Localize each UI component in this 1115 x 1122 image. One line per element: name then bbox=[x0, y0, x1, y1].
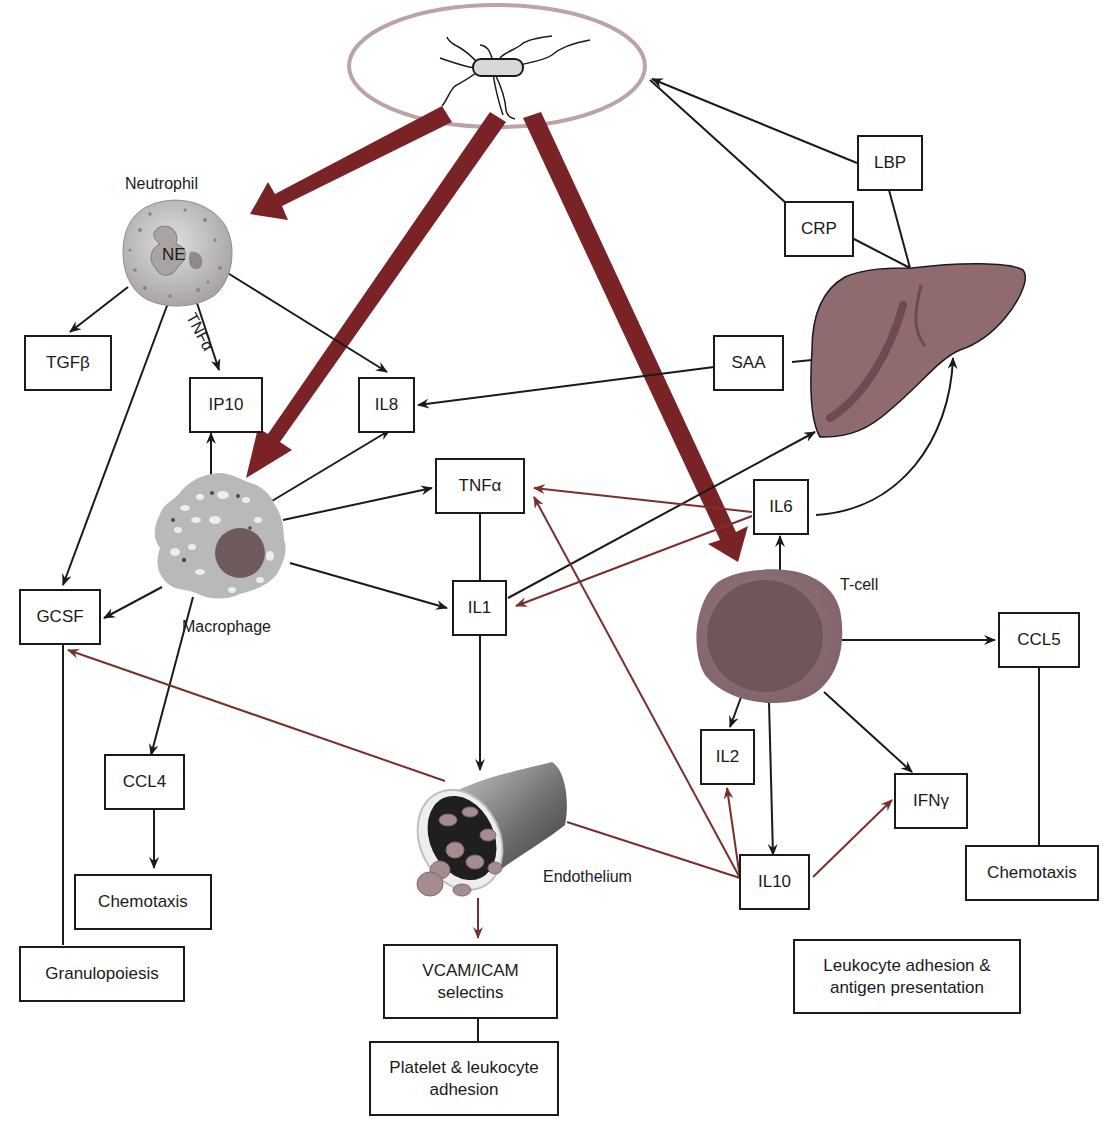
il1-box: IL1 bbox=[452, 580, 507, 636]
lbp-box: LBP bbox=[857, 135, 923, 191]
il2-box: IL2 bbox=[700, 729, 755, 785]
crp-box: CRP bbox=[784, 201, 854, 257]
ifng-box: IFNγ bbox=[894, 773, 968, 829]
tcell-nucleus bbox=[707, 580, 823, 692]
macrophage-cell bbox=[155, 473, 286, 599]
vcam-icam-selectins-box: VCAM/ICAM selectins bbox=[383, 944, 558, 1019]
cytokine-network-diagram: Neutrophil NE TNFα Macrophage T-cell End… bbox=[0, 0, 1115, 1122]
tcell-cell bbox=[696, 569, 842, 703]
granulopoiesis-box: Granulopoiesis bbox=[19, 946, 185, 1002]
endothelium-label: Endothelium bbox=[543, 868, 632, 886]
neutrophil-label: Neutrophil bbox=[125, 175, 198, 193]
bacterium-body bbox=[473, 59, 523, 76]
macrophage-label: Macrophage bbox=[182, 618, 271, 636]
neutrophil-ne-label: NE bbox=[162, 245, 186, 265]
chemotaxis-left-box: Chemotaxis bbox=[74, 874, 212, 930]
il6-box: IL6 bbox=[753, 479, 809, 535]
saa-box: SAA bbox=[713, 335, 784, 391]
il10-box: IL10 bbox=[739, 854, 810, 910]
il8-box: IL8 bbox=[358, 377, 415, 433]
platelet-leukocyte-adhesion-box: Platelet & leukocyte adhesion bbox=[369, 1041, 559, 1116]
pathogen-group bbox=[349, 5, 645, 127]
liver-icon bbox=[811, 264, 1025, 437]
ip10-box: IP10 bbox=[189, 377, 263, 433]
chemotaxis-right-box: Chemotaxis bbox=[965, 845, 1099, 901]
bacterium-icon bbox=[440, 36, 590, 119]
ccl4-box: CCL4 bbox=[104, 754, 185, 810]
macrophage-nucleus bbox=[215, 528, 265, 578]
ccl5-box: CCL5 bbox=[998, 612, 1080, 668]
thick-arrow-to-neutrophil bbox=[250, 106, 452, 220]
tcell-label: T-cell bbox=[840, 576, 878, 594]
gcsf-box: GCSF bbox=[19, 589, 101, 645]
tnfa-box: TNFα bbox=[435, 458, 525, 514]
leukocyte-adhesion-antigen-box: Leukocyte adhesion & antigen presentatio… bbox=[793, 939, 1021, 1014]
tgfb-box: TGFβ bbox=[24, 335, 112, 391]
